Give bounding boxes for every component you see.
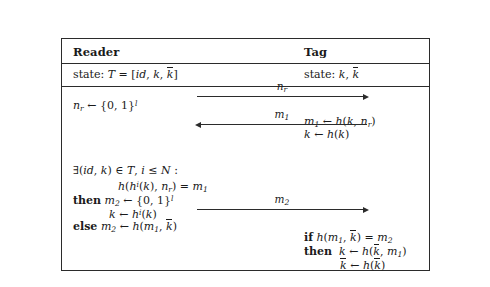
tag-then-keyword: then bbox=[304, 245, 332, 258]
header-divider bbox=[62, 63, 429, 64]
arrow-shaft-m1 bbox=[197, 124, 367, 125]
arrow-head-m2 bbox=[363, 207, 369, 213]
tag-m1-arrow: ← bbox=[323, 115, 332, 128]
arrow-shaft-nr bbox=[197, 96, 367, 97]
tag-then-k: k bbox=[339, 245, 346, 258]
message-label-nr: nr bbox=[277, 80, 287, 94]
reader-state-comma-2: , bbox=[160, 68, 164, 81]
exists-le: ≤ bbox=[148, 164, 157, 177]
message-m2-sub: 2 bbox=[285, 198, 290, 207]
tag-if-m1: m bbox=[328, 231, 338, 244]
exists-comma: , bbox=[94, 164, 98, 177]
tag-then-paren-close: ) bbox=[402, 245, 406, 258]
exists-in: ∈ bbox=[115, 164, 123, 177]
else-kbar: k bbox=[166, 220, 173, 233]
message-nr-sub: r bbox=[284, 85, 288, 94]
tag-m1-nr: n bbox=[361, 115, 368, 128]
tag-k-paren-close: ) bbox=[345, 128, 349, 141]
exists-k: k bbox=[101, 164, 108, 177]
tag-then-kbar: k bbox=[373, 245, 380, 258]
tag-last-h: h bbox=[363, 259, 370, 272]
cond-m1: m bbox=[192, 180, 202, 193]
reader-nonce-set-sup: l bbox=[135, 99, 137, 108]
tag-if-h: h bbox=[316, 231, 323, 244]
message-m2-base: m bbox=[275, 193, 285, 205]
tag-if-m2: m bbox=[377, 231, 387, 244]
tag-if-m2-sub: 2 bbox=[388, 236, 393, 245]
state-divider bbox=[62, 86, 429, 87]
tag-k-inner: k bbox=[338, 128, 345, 141]
message-m1-sub: 1 bbox=[285, 113, 290, 122]
else-m2-sub: 2 bbox=[111, 225, 116, 234]
column-title-tag: Tag bbox=[304, 45, 327, 59]
tag-update-k: k ← h(k) bbox=[304, 128, 349, 141]
tag-m1: m bbox=[304, 115, 314, 128]
tag-if-comma: , bbox=[343, 231, 347, 244]
message-nr-base: n bbox=[277, 80, 284, 92]
else-paren-close: ) bbox=[173, 220, 177, 233]
protocol-diagram: Reader Tag state: T = [id, k, k] state: … bbox=[61, 38, 430, 271]
reader-state-prefix: state: bbox=[73, 68, 104, 81]
reader-exists-line: ∃(id, k) ∈ T, i ≤ N : bbox=[73, 164, 178, 177]
reader-state-kbar: k bbox=[167, 68, 174, 81]
else-m1: m bbox=[144, 220, 154, 233]
reader-state-T: T bbox=[108, 68, 115, 81]
tag-then-m1: m bbox=[387, 245, 397, 258]
then-set-sup: l bbox=[171, 194, 173, 203]
exists-N: N bbox=[161, 164, 171, 177]
tag-state-kbar: k bbox=[352, 68, 359, 81]
exists-comma-2: , bbox=[134, 164, 138, 177]
exists-colon: : bbox=[174, 164, 178, 177]
tag-last-arrow: ← bbox=[350, 259, 359, 272]
reader-step-nonce: nr ← {0, 1}l bbox=[73, 97, 137, 115]
reader-state-comma-1: , bbox=[146, 68, 150, 81]
tag-state: state: k, k bbox=[304, 68, 359, 81]
reader-nonce-set: {0, 1} bbox=[100, 99, 135, 112]
cond-m1-sub: 1 bbox=[203, 185, 208, 194]
else-m2: m bbox=[101, 220, 111, 233]
else-keyword: else bbox=[73, 220, 97, 233]
reader-state-id: id bbox=[136, 68, 147, 81]
tag-m1-k: k bbox=[347, 115, 354, 128]
message-label-m2: m2 bbox=[275, 193, 290, 207]
tag-m1-h: h bbox=[336, 115, 343, 128]
tag-update-kbar: k ← h(k) bbox=[340, 259, 385, 272]
tag-if-eq: = bbox=[365, 231, 374, 244]
reader-else-line: else m2 ← h(m1, k) bbox=[73, 220, 177, 236]
exists-paren-close: ) bbox=[108, 164, 112, 177]
reader-nr-sub: r bbox=[80, 104, 84, 113]
tag-k-h: h bbox=[327, 128, 334, 141]
else-arrow: ← bbox=[120, 220, 129, 233]
message-label-m1: m1 bbox=[275, 108, 290, 122]
column-title-reader: Reader bbox=[73, 45, 119, 59]
tag-m1-comma: , bbox=[354, 115, 358, 128]
tag-if-keyword: if bbox=[304, 231, 313, 244]
tag-m1-paren-close: ) bbox=[371, 115, 375, 128]
tag-then-arrow: ← bbox=[349, 245, 358, 258]
tag-k-update: k bbox=[304, 128, 311, 141]
reader-state-eq: = bbox=[119, 68, 128, 81]
tag-k-arrow: ← bbox=[314, 128, 323, 141]
reader-state-k: k bbox=[153, 68, 160, 81]
reader-nonce-arrow: ← bbox=[87, 99, 96, 112]
tag-then-comma: , bbox=[380, 245, 384, 258]
else-comma: , bbox=[159, 220, 163, 233]
tag-state-comma: , bbox=[345, 68, 349, 81]
arrow-head-nr bbox=[363, 94, 369, 100]
exists-i: i bbox=[141, 164, 145, 177]
reader-state: state: T = [id, k, k] bbox=[73, 68, 178, 81]
reader-state-bracket-close: ] bbox=[174, 68, 178, 81]
tag-last-paren-close: ) bbox=[381, 259, 385, 272]
cond-eq: = bbox=[180, 180, 189, 193]
tag-then-h: h bbox=[362, 245, 369, 258]
tag-last-kbar-inner: k bbox=[374, 259, 381, 272]
tag-if-kbar: k bbox=[350, 231, 357, 244]
exists-id: id bbox=[83, 164, 94, 177]
arrow-shaft-m2 bbox=[197, 209, 367, 210]
arrow-head-m1 bbox=[195, 122, 201, 128]
then-keyword: then bbox=[73, 194, 101, 207]
tag-last-kbar: k bbox=[340, 259, 347, 272]
tag-state-prefix: state: bbox=[304, 68, 335, 81]
tag-if-paren-close: ) bbox=[357, 231, 361, 244]
message-m1-base: m bbox=[275, 108, 285, 120]
